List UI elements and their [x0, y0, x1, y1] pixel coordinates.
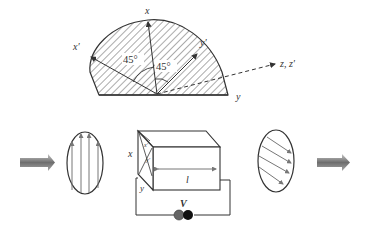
label-voltage: V: [180, 198, 188, 209]
label-face-y-prime: y′: [145, 157, 151, 163]
label-x: x: [144, 5, 150, 16]
output-polarization-ellipse: [258, 130, 294, 192]
output-light-arrow: [317, 154, 350, 171]
angle-label-2: 45°: [156, 61, 171, 72]
battery-terminal-left: [174, 210, 184, 220]
label-x-prime: x′: [72, 41, 80, 52]
input-light-arrow: [20, 154, 55, 171]
angle-label-1: 45°: [123, 54, 138, 65]
label-z: z, z′: [279, 58, 296, 69]
hatched-section: [90, 20, 228, 95]
electro-optic-modulator-diagram: x x′ y′ y z, z′ 45° 45° x y l: [0, 0, 388, 233]
input-polarization-ellipse: [67, 132, 103, 194]
electro-optic-crystal: x y l x′ y′: [127, 131, 230, 215]
battery-terminal-right: [183, 210, 193, 220]
label-crystal-x: x: [127, 148, 133, 159]
label-face-x-prime: x′: [143, 142, 149, 148]
voltage-source: V: [174, 198, 194, 222]
index-ellipsoid-section: x x′ y′ y z, z′ 45° 45°: [72, 5, 296, 102]
label-y-prime: y′: [199, 37, 207, 48]
label-length: l: [186, 174, 189, 185]
label-crystal-y: y: [139, 183, 144, 193]
label-y: y: [235, 91, 241, 102]
